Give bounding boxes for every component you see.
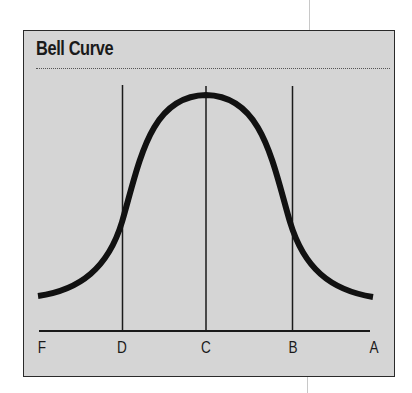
label-a: A: [369, 339, 378, 357]
label-d: D: [117, 339, 127, 357]
bell-curve-plot: [0, 0, 412, 393]
label-c: C: [201, 339, 211, 357]
label-b: B: [288, 339, 297, 357]
label-f: F: [38, 339, 46, 357]
